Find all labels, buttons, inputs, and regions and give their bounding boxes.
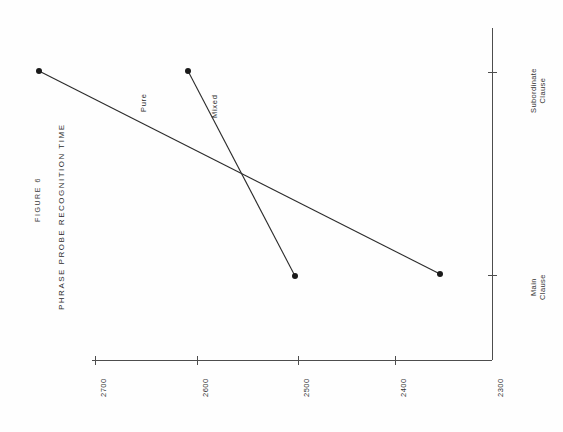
category-label-subordinate-clause-line1: Subordinate <box>529 68 538 113</box>
value-tick-label-2300: 2300 <box>496 378 505 397</box>
chart-plot-area <box>0 0 563 432</box>
data-point-pure-subordinate-clause <box>36 68 42 74</box>
category-label-subordinate-clause: Subordinate Clause <box>529 68 547 113</box>
data-point-pure-main-clause <box>437 271 443 277</box>
category-label-subordinate-clause-line2: Clause <box>538 68 547 113</box>
figure-number: FIGURE 6 <box>34 177 41 222</box>
category-label-main-clause: Main Clause <box>529 274 547 300</box>
series-label-mixed: Mixed <box>210 94 219 118</box>
value-tick-label-2400: 2400 <box>399 378 408 397</box>
value-tick-label-2700: 2700 <box>99 378 108 397</box>
data-point-mixed-subordinate-clause <box>185 68 191 74</box>
value-tick-label-2600: 2600 <box>201 378 210 397</box>
value-tick-label-2500: 2500 <box>302 378 311 397</box>
figure-title: PHRASE PROBE RECOGNITION TIME <box>57 124 66 310</box>
series-line-mixed <box>188 71 295 276</box>
data-point-mixed-main-clause <box>292 273 298 279</box>
category-label-main-clause-line2: Clause <box>538 274 547 300</box>
category-label-main-clause-line1: Main <box>529 274 538 300</box>
series-label-pure: Pure <box>139 93 148 112</box>
figure-container: FIGURE 6 PHRASE PROBE RECOGNITION TIME P… <box>0 0 563 432</box>
series-line-pure <box>39 71 440 274</box>
